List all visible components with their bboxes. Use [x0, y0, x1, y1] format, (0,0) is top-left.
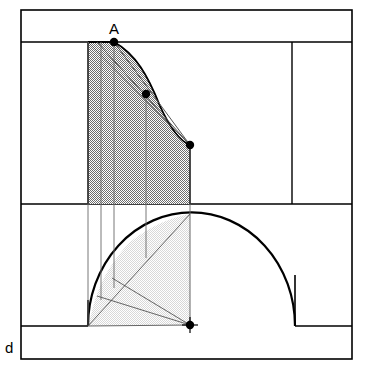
profile-fill: [88, 42, 190, 204]
data-point-3: [186, 141, 194, 149]
upper-profile-region: [88, 42, 190, 204]
label-bottom-left: d: [5, 339, 13, 356]
data-point-2: [142, 90, 150, 98]
diagram-canvas: A d: [0, 0, 373, 369]
technical-figure: A d: [0, 0, 373, 369]
label-point-a: A: [109, 20, 119, 37]
data-point-a: [110, 38, 118, 46]
focus-point-dot: [186, 321, 194, 329]
